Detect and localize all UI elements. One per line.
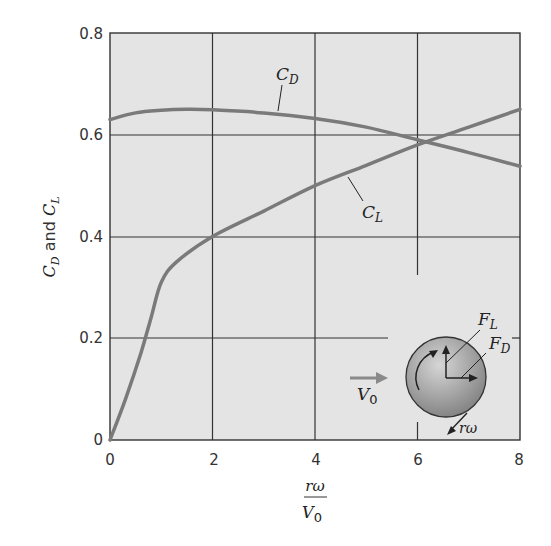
y-tick-labels: 0 0.2 0.4 0.6 0.8 <box>79 25 103 449</box>
svg-text:0.6: 0.6 <box>79 126 103 144</box>
svg-text:6: 6 <box>413 451 423 469</box>
svg-text:2: 2 <box>209 451 219 469</box>
x-axis-label: rω V0 <box>302 477 327 525</box>
rw-label: rω <box>459 420 478 436</box>
svg-text:V0: V0 <box>302 503 322 525</box>
svg-text:0.2: 0.2 <box>79 329 103 347</box>
x-tick-labels: 0 2 4 6 8 <box>105 451 524 469</box>
chart: CD CL 0 0.2 0.4 0.6 0.8 0 2 4 6 8 CD and… <box>0 0 551 546</box>
svg-text:rω: rω <box>305 477 324 495</box>
y-axis-label: CD and CL <box>40 197 62 278</box>
svg-text:0: 0 <box>105 451 115 469</box>
svg-text:8: 8 <box>514 451 524 469</box>
svg-text:0: 0 <box>93 431 103 449</box>
svg-text:0.8: 0.8 <box>79 25 103 43</box>
svg-text:4: 4 <box>311 451 321 469</box>
svg-text:CD and CL: CD and CL <box>40 197 62 278</box>
svg-text:0.4: 0.4 <box>79 228 103 246</box>
